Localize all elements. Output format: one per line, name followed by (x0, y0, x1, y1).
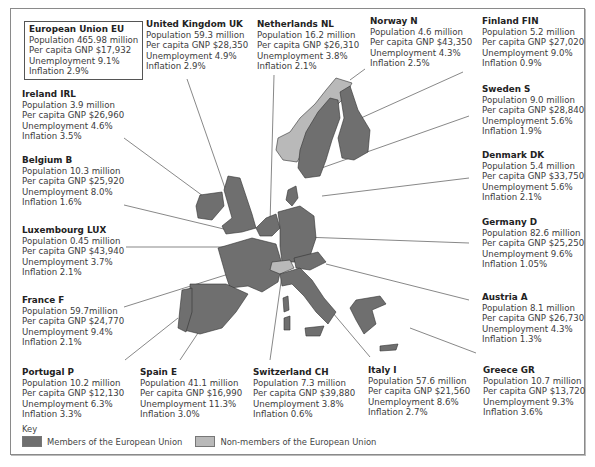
country-population: Population 8.1 million (482, 303, 584, 314)
country-population: Population 9.0 million (482, 95, 584, 106)
country-gnp: Per capita GNP $12,130 (22, 388, 124, 399)
country-inflation: Inflation 2.1% (257, 61, 359, 72)
country-gnp: Per capita GNP $43,350 (370, 37, 472, 48)
country-title: Switzerland CH (253, 367, 355, 378)
country-gnp: Per capita GNP $27,020 (482, 37, 584, 48)
country-title: Belgium B (22, 155, 124, 166)
countries (178, 78, 398, 351)
country-inflation: Inflation 2.1% (22, 267, 124, 278)
country-unemployment: Unemployment 4.3% (482, 324, 584, 335)
country-unemployment: Unemployment 9.0% (482, 48, 584, 59)
country-gnp: Per capita GNP $26,960 (22, 110, 124, 121)
country-title: Portugal P (22, 367, 124, 378)
country-gnp: Per capita GNP $28,350 (146, 40, 248, 51)
country-unemployment: Unemployment 5.6% (482, 116, 584, 127)
country-gnp: Per capita GNP $43,940 (22, 246, 124, 257)
country-population: Population 4.6 million (370, 27, 472, 38)
country-unemployment: Unemployment 4.3% (370, 48, 472, 59)
country-box-ireland: Ireland IRL Population 3.9 million Per c… (22, 89, 124, 142)
member-swatch-icon (22, 436, 42, 447)
country-unemployment: Unemployment 8.0% (22, 187, 124, 198)
country-inflation: Inflation 1.9% (482, 126, 584, 137)
country-population: Population 10.2 million (22, 378, 124, 389)
country-inflation: Inflation 2.5% (370, 58, 472, 69)
country-title: France F (22, 295, 124, 306)
country-unemployment: Unemployment 4.9% (146, 51, 248, 62)
country-gnp: Per capita GNP $25,250 (482, 238, 584, 249)
country-title: Ireland IRL (22, 89, 124, 100)
country-inflation: Inflation 1.3% (482, 334, 584, 345)
country-inflation: Inflation 3.3% (22, 409, 124, 420)
country-inflation: Inflation 3.5% (22, 131, 124, 142)
country-unemployment: Unemployment 6.3% (22, 399, 124, 410)
country-gnp: Per capita GNP $28,840 (482, 105, 584, 116)
country-population: Population 59.7million (22, 306, 124, 317)
country-unemployment: Unemployment 9.4% (22, 327, 124, 338)
country-inflation: Inflation 0.9% (482, 58, 584, 69)
country-gnp: Per capita GNP $13,720 (483, 386, 585, 397)
country-population: Population 59.3 million (146, 30, 248, 41)
eu-summary-box: European Union EU Population 465.98 mill… (24, 21, 143, 80)
country-title: Austria A (482, 292, 584, 303)
country-title: Spain E (140, 367, 242, 378)
country-unemployment: Unemployment 3.8% (257, 51, 359, 62)
country-population: Population 10.3 million (22, 166, 124, 177)
country-inflation: Inflation 3.6% (483, 407, 585, 418)
country-title: Norway N (370, 16, 472, 27)
country-gnp: Per capita GNP $24,770 (22, 316, 124, 327)
country-population: Population 5.4 million (482, 161, 584, 172)
country-unemployment: Unemployment 8.6% (368, 397, 470, 408)
map-key: Key Members of the European Union Non-me… (22, 424, 376, 447)
country-unemployment: Unemployment 3.7% (22, 257, 124, 268)
country-unemployment: Unemployment 5.6% (482, 182, 584, 193)
country-box-italy: Italy I Population 57.6 million Per capi… (368, 365, 470, 418)
country-box-luxembourg: Luxembourg LUX Population 0.45 million P… (22, 225, 124, 278)
country-title: Sweden S (482, 84, 584, 95)
country-title: Finland FIN (482, 16, 584, 27)
country-inflation: Inflation 2.1% (482, 192, 584, 203)
eu-unemployment: Unemployment 9.1% (29, 56, 138, 67)
country-box-germany: Germany D Population 82.6 million Per ca… (482, 217, 584, 270)
country-inflation: Inflation 2.9% (146, 61, 248, 72)
country-unemployment: Unemployment 9.3% (483, 397, 585, 408)
country-box-spain: Spain E Population 41.1 million Per capi… (140, 367, 242, 420)
country-box-belgium: Belgium B Population 10.3 million Per ca… (22, 155, 124, 208)
country-box-sweden: Sweden S Population 9.0 million Per capi… (482, 84, 584, 137)
country-gnp: Per capita GNP $26,730 (482, 313, 584, 324)
country-inflation: Inflation 1.05% (482, 259, 584, 270)
country-title: Denmark DK (482, 150, 584, 161)
country-box-austria: Austria A Population 8.1 million Per cap… (482, 292, 584, 345)
country-population: Population 3.9 million (22, 100, 124, 111)
country-gnp: Per capita GNP $21,560 (368, 386, 470, 397)
country-title: Netherlands NL (257, 19, 359, 30)
country-inflation: Inflation 1.6% (22, 197, 124, 208)
country-title: Italy I (368, 365, 470, 376)
non-member-label: Non-members of the European Union (220, 437, 376, 447)
country-gnp: Per capita GNP $39,880 (253, 388, 355, 399)
country-box-nl: Netherlands NL Population 16.2 million P… (257, 19, 359, 72)
country-inflation: Inflation 2.1% (22, 337, 124, 348)
country-population: Population 82.6 million (482, 228, 584, 239)
country-population: Population 57.6 million (368, 376, 470, 387)
key-title: Key (22, 424, 376, 434)
country-title: Germany D (482, 217, 584, 228)
eu-inflation: Inflation 2.9% (29, 66, 138, 77)
country-population: Population 16.2 million (257, 30, 359, 41)
country-unemployment: Unemployment 11.3% (140, 399, 242, 410)
country-unemployment: Unemployment 3.8% (253, 399, 355, 410)
member-label: Members of the European Union (47, 437, 182, 447)
country-title: Luxembourg LUX (22, 225, 124, 236)
country-box-uk: United Kingdom UK Population 59.3 millio… (146, 19, 248, 72)
country-unemployment: Unemployment 9.6% (482, 249, 584, 260)
eu-population: Population 465.98 million (29, 35, 138, 46)
eu-gnp: Per capita GNP $17,932 (29, 45, 138, 56)
country-gnp: Per capita GNP $33,750 (482, 171, 584, 182)
country-title: Greece GR (483, 365, 585, 376)
country-inflation: Inflation 3.0% (140, 409, 242, 420)
country-gnp: Per capita GNP $16,990 (140, 388, 242, 399)
country-inflation: Inflation 0.6% (253, 409, 355, 420)
country-box-portugal: Portugal P Population 10.2 million Per c… (22, 367, 124, 420)
country-box-switzerland: Switzerland CH Population 7.3 million Pe… (253, 367, 355, 420)
country-box-finland: Finland FIN Population 5.2 million Per c… (482, 16, 584, 69)
country-box-france: France F Population 59.7million Per capi… (22, 295, 124, 348)
